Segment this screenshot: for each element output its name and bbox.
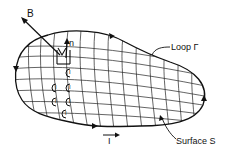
loop-current-label: I xyxy=(65,110,67,116)
loop-label: Loop Γ xyxy=(171,43,198,52)
current-label: I xyxy=(108,137,111,146)
surface-leader xyxy=(162,118,176,139)
current-arrow-icon xyxy=(115,133,120,138)
surface-label: Surface S xyxy=(176,137,216,146)
loop-surface-diagram: B n Loop Γ Surface S I I I I I I I xyxy=(0,0,236,161)
loop-leader xyxy=(152,47,170,55)
loop-current-label: I xyxy=(55,98,57,104)
b-label: B xyxy=(27,9,34,19)
current-loops xyxy=(52,69,70,118)
loop-current-label: I xyxy=(69,84,71,90)
n-label: n xyxy=(69,39,74,48)
normal-arrow xyxy=(66,42,67,58)
loop-current-label: I xyxy=(55,84,57,90)
loop-current-label: I xyxy=(69,98,71,104)
loop-current-label: I xyxy=(69,69,71,75)
